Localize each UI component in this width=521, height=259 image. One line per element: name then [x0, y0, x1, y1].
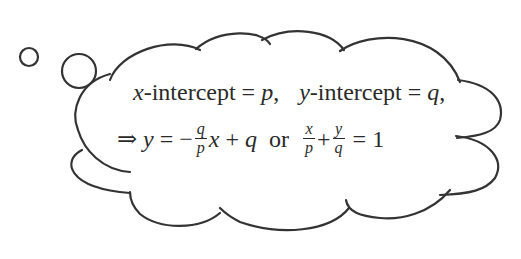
equals: =: [353, 126, 367, 152]
equals: =: [160, 126, 174, 152]
intercepts-line: x-intercept = p, y-intercept = q,: [133, 80, 445, 104]
one: 1: [372, 126, 384, 152]
y-intercept-value: q: [427, 79, 439, 105]
numerator: y: [333, 121, 345, 139]
numerator: x: [303, 121, 315, 139]
or-word: or: [269, 126, 289, 152]
cloud-lobe-top-3: [340, 38, 460, 82]
comma: ,: [439, 79, 445, 105]
minus: −: [179, 126, 193, 152]
fraction-y-over-q: yq: [333, 121, 345, 156]
x-intercept-label: -intercept: [144, 79, 236, 105]
y-var: y: [143, 126, 154, 152]
cloud-lobe-top-2: [196, 33, 270, 49]
implies-symbol: ⇒: [117, 126, 137, 152]
y-var: y: [299, 79, 310, 105]
denominator: q: [333, 139, 345, 156]
cloud-lobe-top-1: [110, 44, 200, 80]
y-intercept-label: -intercept: [310, 79, 402, 105]
comma: ,: [273, 79, 279, 105]
equals: =: [408, 79, 422, 105]
cloud-lobe-bottom-middle: [220, 208, 349, 230]
fraction-x-over-p: xp: [303, 121, 315, 156]
cloud-lobe-bottom-left: [130, 192, 220, 226]
cloud-lobe-right-1: [457, 80, 501, 138]
equals: =: [242, 79, 256, 105]
denominator: p: [195, 139, 207, 156]
x-var: x: [133, 79, 144, 105]
q-var: q: [245, 126, 257, 152]
thought-dot-small: [20, 48, 38, 66]
x-var: x: [209, 126, 220, 152]
x-intercept-value: p: [261, 79, 273, 105]
numerator: q: [195, 121, 207, 139]
equation-line: ⇒ y = −qpx + q or xp+yq = 1: [117, 124, 384, 159]
plus: +: [226, 126, 240, 152]
cloud-lobe-right-2: [440, 136, 498, 195]
cloud-lobe-bottom-right: [346, 190, 450, 218]
plus: +: [317, 126, 331, 152]
cloud-lobe-top-2b: [262, 31, 344, 50]
denominator: p: [303, 139, 315, 156]
fraction-slope: qp: [195, 121, 207, 156]
